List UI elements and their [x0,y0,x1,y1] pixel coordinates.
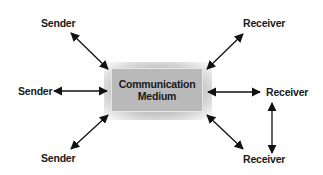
receiver-bottom-label: Receiver [243,153,285,165]
arrow-sender-bottom [71,115,108,149]
sender-middle-label: Sender [18,85,52,97]
communication-diagram: Communication Medium Sender Sender Sende… [0,0,323,175]
arrow-receiver-top [207,34,243,69]
sender-bottom-label: Sender [41,152,75,164]
receiver-middle-label: Receiver [266,86,308,98]
arrow-receiver-bottom [207,115,243,149]
sender-top-label: Sender [41,17,75,29]
arrow-sender-top [71,33,108,69]
receiver-top-label: Receiver [243,17,285,29]
